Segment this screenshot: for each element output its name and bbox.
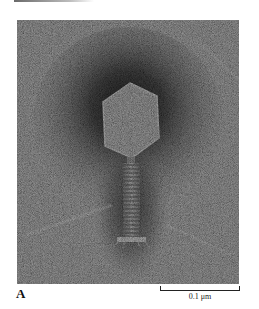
scale-bar-label: 0.1 μm <box>160 293 240 301</box>
scale-bar <box>160 286 240 291</box>
top-edge-artifact <box>14 0 94 2</box>
micrograph-image <box>17 20 239 284</box>
electron-micrograph <box>17 20 239 284</box>
panel-label: A <box>16 287 25 300</box>
